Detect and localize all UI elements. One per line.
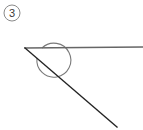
horizontal-ray xyxy=(25,47,143,48)
angle-diagram-canvas: 3 xyxy=(0,0,143,130)
question-number-label: 3 xyxy=(4,5,20,21)
angle-diagram-figure: 3 xyxy=(0,0,143,130)
label-number-text: 3 xyxy=(9,7,15,19)
